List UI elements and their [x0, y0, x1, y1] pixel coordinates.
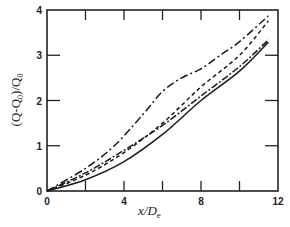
- series-solid: [47, 42, 268, 191]
- tick-labels: 0481201234: [36, 5, 284, 207]
- series-dash-dot: [47, 16, 268, 191]
- y-tick-label: 1: [36, 141, 42, 152]
- x-tick-label: 12: [272, 196, 284, 207]
- x-tick-label: 0: [44, 196, 50, 207]
- plot-frame: [47, 10, 278, 191]
- y-tick-label: 2: [36, 96, 42, 107]
- series-long-dash: [47, 40, 268, 191]
- x-tick-label: 4: [121, 196, 127, 207]
- x-tick-label: 8: [198, 196, 204, 207]
- series-lines: [47, 16, 268, 191]
- series-short-dash: [47, 21, 268, 191]
- y-tick-label: 3: [36, 50, 42, 61]
- chart: 0481201234 x/De (Q-Q0)/Q0: [0, 0, 290, 227]
- y-tick-label: 4: [36, 5, 42, 16]
- x-axis-label: x/De: [137, 203, 161, 220]
- y-tick-label: 0: [36, 186, 42, 197]
- ticks: [47, 10, 278, 191]
- y-axis-label: (Q-Q0)/Q0: [8, 74, 25, 127]
